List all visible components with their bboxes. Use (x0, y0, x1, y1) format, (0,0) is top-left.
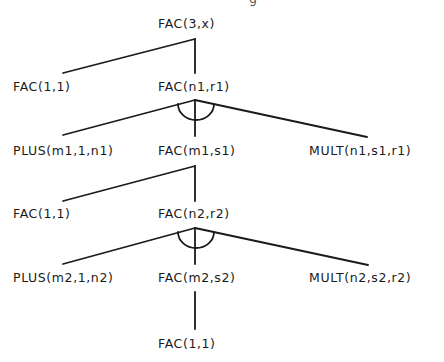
node-l4-plus: PLUS(m2,1,n2) (13, 271, 113, 285)
edge-rec2-to-plus (63, 228, 195, 264)
node-l4-fac: FAC(m2,s2) (158, 271, 235, 285)
node-l2-mult: MULT(n1,s1,r1) (309, 144, 411, 158)
node-root: FAC(3,x) (158, 17, 215, 31)
node-l3-rec: FAC(n2,r2) (158, 207, 230, 221)
edge-fac1-to-base (63, 166, 195, 201)
and-arc-2 (178, 232, 214, 248)
node-l2-plus: PLUS(m1,1,n1) (13, 144, 113, 158)
edge-rec1-to-plus (63, 100, 195, 135)
node-l5-base: FAC(1,1) (158, 337, 216, 351)
and-or-tree-diagram: g FAC(3,x) FAC(1,1) FAC(n1,r1) PLUS(m1,1… (0, 0, 444, 362)
and-arc-1 (178, 104, 214, 120)
node-l4-mult: MULT(n2,s2,r2) (309, 271, 411, 285)
edge-rec1-to-mult (195, 100, 367, 137)
node-l2-fac: FAC(m1,s1) (158, 144, 235, 158)
node-l1-rec: FAC(n1,r1) (158, 80, 230, 94)
node-l3-base: FAC(1,1) (13, 207, 71, 221)
tree-edges (0, 0, 444, 362)
edge-root-to-base (63, 39, 195, 73)
edge-rec2-to-mult (195, 228, 368, 265)
node-l1-base: FAC(1,1) (13, 80, 71, 94)
